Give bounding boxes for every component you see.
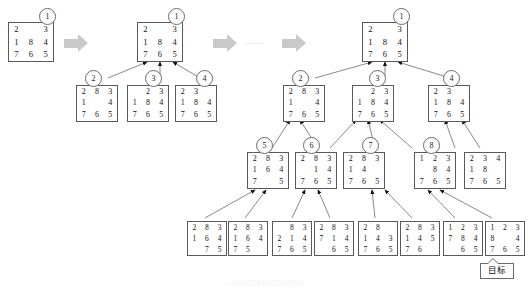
- puzzle-cell: 7: [77, 109, 90, 121]
- node-badge-stage3-node4: 4: [443, 70, 460, 87]
- puzzle-cell: 4: [357, 165, 370, 177]
- puzzle-cell: 4: [155, 98, 168, 110]
- puzzle-cell: 7: [201, 244, 214, 255]
- puzzle-cell: 8: [189, 98, 202, 110]
- puzzle-cell: 1: [353, 98, 366, 110]
- puzzle-cell: 5: [323, 176, 336, 188]
- puzzle-cell: 4: [323, 165, 336, 177]
- board-stage1-root: 23184765: [8, 22, 54, 62]
- puzzle-cell: 8: [457, 233, 470, 244]
- puzzle-cell: 6: [414, 244, 427, 255]
- puzzle-cell: 2: [315, 222, 328, 233]
- puzzle-cell: 1: [176, 98, 189, 110]
- puzzle-cell: [415, 165, 428, 177]
- puzzle-cell: 8: [141, 98, 154, 110]
- puzzle-cell: 6: [457, 244, 470, 255]
- puzzle-cell: 4: [254, 233, 267, 244]
- puzzle-cell: [153, 23, 168, 36]
- puzzle-cell: 8: [478, 165, 491, 177]
- goal-callout: 目标: [480, 263, 514, 279]
- puzzle-cell: 2: [284, 86, 297, 98]
- puzzle-cell: 7: [401, 244, 414, 255]
- puzzle-cell: [315, 244, 328, 255]
- puzzle-cell: 6: [90, 109, 103, 121]
- puzzle-cell: 2: [296, 153, 309, 165]
- puzzle-cell: 4: [392, 36, 407, 49]
- puzzle-cell: 6: [309, 176, 322, 188]
- puzzle-cell: 1: [138, 36, 153, 49]
- puzzle-cell: 1: [415, 153, 428, 165]
- node-badge-stage3-node2: 2: [292, 70, 309, 87]
- board-stage3-node6: 28314765: [295, 152, 337, 189]
- puzzle-cell: 1: [444, 222, 457, 233]
- puzzle-cell: 3: [380, 86, 393, 98]
- puzzle-cell: 6: [297, 109, 310, 121]
- stage-arrow-2b: [282, 34, 308, 53]
- board-stage2-node3: 23184765: [127, 85, 169, 122]
- puzzle-cell: 6: [328, 244, 341, 255]
- puzzle-cell: 5: [340, 244, 353, 255]
- figure-caption: 八数码问题的状态空间搜索树: [0, 278, 530, 287]
- puzzle-cell: 1: [188, 233, 201, 244]
- puzzle-cell: 6: [357, 176, 370, 188]
- puzzle-cell: 1: [401, 233, 414, 244]
- puzzle-cell: 5: [426, 233, 439, 244]
- puzzle-cell: 2: [77, 86, 90, 98]
- puzzle-cell: 8: [261, 153, 274, 165]
- puzzle-cell: 8: [153, 36, 168, 49]
- puzzle-cell: 6: [201, 233, 214, 244]
- puzzle-cell: 6: [499, 244, 512, 255]
- puzzle-cell: 8: [297, 86, 310, 98]
- puzzle-cell: 6: [478, 176, 491, 188]
- stage-arrow-2a: [213, 34, 239, 53]
- puzzle-cell: 7: [429, 109, 442, 121]
- puzzle-cell: 3: [384, 233, 397, 244]
- puzzle-cell: 1: [359, 233, 372, 244]
- puzzle-cell: 6: [261, 165, 274, 177]
- puzzle-cell: 2: [363, 23, 378, 36]
- puzzle-cell: 7: [353, 109, 366, 121]
- puzzle-cell: 5: [38, 48, 53, 61]
- puzzle-cell: [378, 23, 393, 36]
- puzzle-cell: 4: [275, 165, 288, 177]
- board-stage3-node5: 28316475: [247, 152, 289, 189]
- puzzle-cell: 4: [298, 233, 311, 244]
- puzzle-cell: 3: [478, 153, 491, 165]
- puzzle-cell: [444, 244, 457, 255]
- puzzle-cell: 8: [24, 36, 39, 49]
- puzzle-cell: [353, 86, 366, 98]
- board-stage3-leaf-4: 28371465: [314, 221, 354, 256]
- puzzle-cell: 3: [254, 222, 267, 233]
- puzzle-cell: 7: [415, 176, 428, 188]
- puzzle-cell: 8: [242, 222, 255, 233]
- puzzle-cell: 2: [229, 222, 242, 233]
- board-stage3-leaf-5: 28143765: [358, 221, 398, 256]
- puzzle-cell: 7: [344, 176, 357, 188]
- puzzle-cell: 3: [426, 222, 439, 233]
- puzzle-cell: [24, 23, 39, 36]
- puzzle-cell: [456, 86, 469, 98]
- puzzle-cell: 1: [309, 165, 322, 177]
- puzzle-cell: 5: [167, 48, 182, 61]
- puzzle-cell: 4: [372, 233, 385, 244]
- node-badge-stage3-node8: 8: [423, 137, 440, 154]
- puzzle-cell: 8: [366, 98, 379, 110]
- puzzle-cell: 8: [414, 222, 427, 233]
- puzzle-cell: 7: [176, 109, 189, 121]
- puzzle-cell: 1: [328, 233, 341, 244]
- board-stage3-leaf-2: 28316475: [228, 221, 268, 256]
- puzzle-cell: 3: [155, 86, 168, 98]
- puzzle-cell: 8: [372, 222, 385, 233]
- puzzle-cell: 6: [428, 176, 441, 188]
- puzzle-cell: 3: [275, 153, 288, 165]
- puzzle-cell: 3: [311, 86, 324, 98]
- ellipsis-label: ......: [244, 36, 264, 46]
- board-stage3-node4: 23184765: [428, 85, 470, 122]
- puzzle-cell: 8: [442, 98, 455, 110]
- puzzle-cell: 4: [442, 165, 455, 177]
- stage-arrow-1: [64, 34, 90, 53]
- puzzle-cell: 1: [465, 165, 478, 177]
- puzzle-cell: 8: [486, 233, 499, 244]
- puzzle-cell: 4: [492, 153, 505, 165]
- puzzle-cell: 2: [499, 222, 512, 233]
